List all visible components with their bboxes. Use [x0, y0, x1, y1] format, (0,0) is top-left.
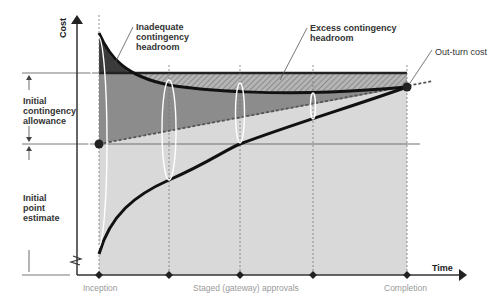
- x-axis-label: Time: [432, 263, 453, 273]
- inadequate-headroom-callout: Inadequate contingency headroom: [136, 22, 189, 52]
- diagram-canvas: [0, 0, 502, 305]
- x-axis-arrow: [459, 269, 467, 281]
- tick-label-staged-approvals: Staged (gateway) approvals: [193, 283, 299, 293]
- tick-label-completion: Completion: [384, 283, 427, 293]
- axis-break-icon: [71, 256, 81, 265]
- initial-point-estimate-label: Initialpointestimate: [23, 193, 60, 223]
- initial-estimate-dot: [95, 140, 104, 149]
- tick-label-inception: Inception: [83, 283, 118, 293]
- y-axis-arrow: [71, 15, 83, 24]
- out-turn-cost-callout: Out-turn cost: [435, 47, 487, 57]
- out-turn-dot: [403, 83, 412, 92]
- y-axis-label: Cost: [58, 18, 68, 38]
- excess-headroom-callout: Excess contingency headroom: [310, 23, 397, 43]
- initial-contingency-label: Initialcontingencyallowance: [23, 96, 76, 126]
